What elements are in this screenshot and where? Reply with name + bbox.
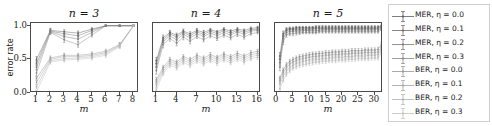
legend-label: BER, η = 0.2 [415,93,463,102]
y-tick-mark [27,58,30,59]
panel-n5: n = 5 051015202530 m [274,22,382,92]
legend-label: MER, η = 0.2 [415,38,464,47]
legend-label: BER, η = 0.1 [415,79,463,88]
panel-title: n = 4 [152,7,260,20]
y-tick-mark [27,25,30,26]
legend-item[interactable]: BER, η = 0.3 [391,105,487,118]
panel-title: n = 5 [274,7,382,20]
legend-item[interactable]: BER, η = 0.0 [391,63,487,76]
legend-label: BER, η = 0.0 [415,65,463,74]
legend-item[interactable]: BER, η = 0.1 [391,77,487,90]
x-axis-label: m [274,103,382,114]
legend-item[interactable]: MER, η = 0.2 [391,36,487,49]
plot-svg [275,23,382,92]
y-tick-mark [27,92,30,93]
legend-label: BER, η = 0.3 [415,107,463,116]
legend-item[interactable]: BER, η = 0.2 [391,91,487,104]
legend-label: MER, η = 0.3 [415,52,464,61]
figure-root: error rate n = 3 123456780.00.51.0 m n =… [0,0,492,126]
y-tick-label: 0.5 [13,53,27,63]
legend-label: MER, η = 0.0 [415,10,464,19]
panel-n3: n = 3 123456780.00.51.0 m [30,22,138,92]
x-axis-label: m [152,103,260,114]
legend-marker-icon [391,36,415,49]
plot-area [30,22,138,92]
legend-item[interactable]: MER, η = 0.1 [391,22,487,35]
panel-title: n = 3 [30,7,138,20]
legend-marker-icon [391,63,415,76]
legend-label: MER, η = 0.1 [415,24,464,33]
legend-item[interactable]: MER, η = 0.0 [391,8,487,21]
plot-area [152,22,260,92]
legend-marker-icon [391,8,415,21]
legend-item[interactable]: MER, η = 0.3 [391,50,487,63]
legend: MER, η = 0.0MER, η = 0.1MER, η = 0.2MER,… [388,4,490,122]
y-tick-label: 1.0 [13,20,27,30]
x-axis-label: m [30,103,138,114]
legend-marker-icon [391,91,415,104]
panel-n4: n = 4 147101316 m [152,22,260,92]
y-tick-label: 0.0 [13,87,27,97]
legend-marker-icon [391,105,415,118]
legend-marker-icon [391,22,415,35]
legend-marker-icon [391,77,415,90]
legend-marker-icon [391,50,415,63]
plot-svg [31,23,138,92]
plot-area [274,22,382,92]
plot-svg [153,23,260,92]
